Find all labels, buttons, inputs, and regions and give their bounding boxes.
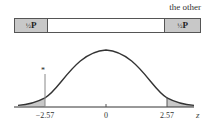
bell-curve [18, 50, 194, 105]
tick-label-0: 0 [104, 111, 108, 120]
z-axis-label: z [196, 110, 200, 120]
star-marker: * [41, 66, 45, 75]
tick-label-neg-2-57: −2.57 [36, 111, 55, 120]
tick-label-2-57: 2.57 [160, 111, 174, 120]
normal-curve-diagram [0, 0, 214, 127]
